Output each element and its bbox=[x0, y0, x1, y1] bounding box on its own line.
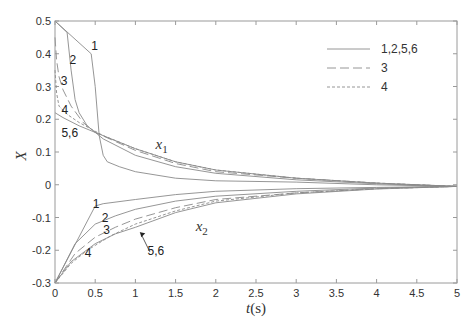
x-tick-label: 4.5 bbox=[409, 287, 424, 299]
state-label-x1: x1 bbox=[155, 136, 168, 155]
x-axis-label: t(s) bbox=[246, 300, 266, 317]
x-tick-label: 0 bbox=[52, 287, 58, 299]
y-tick-label: 0.4 bbox=[36, 48, 51, 60]
x-tick-label: 0.5 bbox=[88, 287, 103, 299]
curve-number-label: 4 bbox=[85, 246, 92, 260]
curve-number-label: 2 bbox=[69, 53, 76, 67]
curve-number-label: 1 bbox=[91, 39, 98, 53]
curve-x2-curve-3 bbox=[55, 186, 457, 283]
curve-x2-curve-2 bbox=[55, 186, 457, 283]
state-label-x2: x2 bbox=[195, 218, 208, 237]
line-chart: 00.511.522.533.544.55 -0.3-0.2-0.100.10.… bbox=[0, 0, 476, 331]
y-tick-label: 0.5 bbox=[36, 15, 51, 27]
curve-number-label: 5,6 bbox=[147, 244, 164, 258]
y-tick-label: -0.3 bbox=[32, 277, 51, 289]
x-tick-label: 3.5 bbox=[329, 287, 344, 299]
legend-label: 4 bbox=[381, 80, 388, 94]
curve-x2-curve-4 bbox=[55, 186, 457, 283]
x-tick-label: 5 bbox=[454, 287, 460, 299]
x-tick-labels: 00.511.522.533.544.55 bbox=[52, 287, 460, 299]
y-tick-labels: -0.3-0.2-0.100.10.20.30.40.5 bbox=[32, 15, 51, 289]
y-tick-label: 0 bbox=[45, 179, 51, 191]
x-tick-label: 4 bbox=[374, 287, 380, 299]
axis-ticks bbox=[55, 21, 457, 283]
x-tick-label: 2 bbox=[213, 287, 219, 299]
legend: 1,2,5,634 bbox=[327, 42, 418, 94]
y-tick-label: 0.2 bbox=[36, 113, 51, 125]
arrow-pointer-5-6 bbox=[140, 232, 150, 252]
curve-x2-curve-1 bbox=[55, 186, 457, 283]
x-tick-label: 1.5 bbox=[168, 287, 183, 299]
x-tick-label: 2.5 bbox=[248, 287, 263, 299]
y-tick-label: 0.3 bbox=[36, 81, 51, 93]
curve-number-label: 1 bbox=[93, 197, 100, 211]
curve-number-label: 3 bbox=[61, 74, 68, 88]
y-tick-label: -0.2 bbox=[32, 244, 51, 256]
legend-label: 3 bbox=[381, 61, 388, 75]
plot-frame bbox=[55, 21, 457, 283]
curve-number-label: 4 bbox=[61, 103, 68, 117]
x-tick-label: 3 bbox=[293, 287, 299, 299]
y-tick-label: 0.1 bbox=[36, 146, 51, 158]
curve-x1-curve-3 bbox=[55, 37, 457, 186]
curve-x1-curve-4 bbox=[55, 70, 457, 186]
curve-number-label: 3 bbox=[103, 223, 110, 237]
legend-label: 1,2,5,6 bbox=[381, 42, 418, 56]
y-axis-label: X bbox=[13, 151, 29, 162]
y-tick-label: -0.1 bbox=[32, 212, 51, 224]
x-tick-label: 1 bbox=[132, 287, 138, 299]
curves bbox=[55, 21, 457, 283]
curve-number-label: 5,6 bbox=[61, 126, 78, 140]
curve-x2-curve-5-6 bbox=[55, 186, 457, 283]
